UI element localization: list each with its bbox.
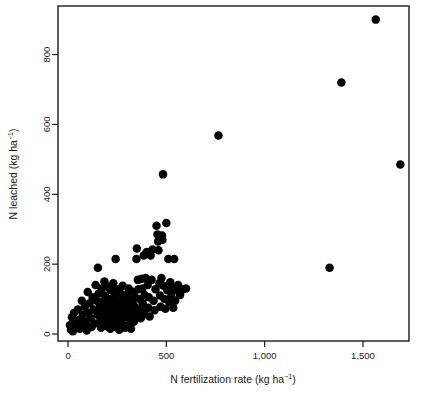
y-tick-label: 800 <box>42 47 53 63</box>
y-tick-label: 400 <box>42 186 53 202</box>
plot-canvas: 05001,0001,500 0200400600800 N fertiliza… <box>0 0 424 396</box>
x-tick-label: 1,000 <box>253 350 277 361</box>
data-point <box>111 255 120 264</box>
y-tick-label: 0 <box>42 331 53 336</box>
data-point <box>337 78 346 87</box>
scatter-plot-figure: 05001,0001,500 0200400600800 N fertiliza… <box>0 0 424 396</box>
data-point <box>94 263 103 272</box>
data-point <box>157 274 166 283</box>
data-point <box>170 255 179 264</box>
data-point <box>372 15 381 24</box>
data-point <box>159 170 168 179</box>
figure-background <box>0 0 424 396</box>
x-tick-label: 0 <box>65 350 70 361</box>
data-point <box>162 219 171 228</box>
data-point <box>152 221 161 230</box>
data-point <box>147 276 156 285</box>
x-tick-label: 500 <box>158 350 174 361</box>
data-point <box>158 235 167 244</box>
data-point <box>132 255 141 264</box>
data-point <box>182 284 191 293</box>
data-point <box>214 131 223 140</box>
data-point <box>396 160 405 169</box>
y-axis-title: N leached (kg ha−1) <box>7 129 19 220</box>
x-tick-label: 1,500 <box>351 350 375 361</box>
x-axis-title: N fertilization rate (kg ha−1) <box>170 373 295 385</box>
y-tick-label: 200 <box>42 256 53 272</box>
data-point <box>154 246 163 255</box>
data-point <box>325 263 334 272</box>
data-point <box>133 244 142 253</box>
y-tick-label: 600 <box>42 116 53 132</box>
